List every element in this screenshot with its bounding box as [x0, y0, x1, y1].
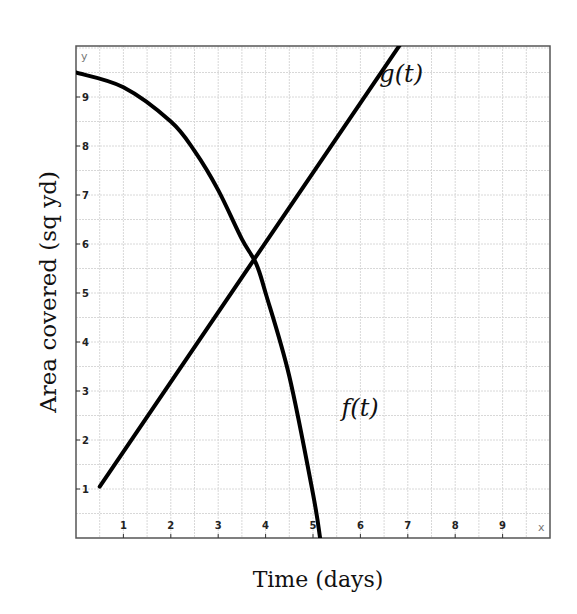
y-tick-label: 1	[82, 484, 89, 495]
x-tick-label: 8	[452, 520, 459, 531]
y-tick-label: 3	[82, 386, 89, 397]
x-tick-label: 5	[310, 520, 317, 531]
chart: 123456789123456789 y x g(t) f(t) Area co…	[0, 0, 577, 614]
y-tick-label: 2	[82, 435, 89, 446]
f-curve-label: f(t)	[339, 394, 378, 422]
y-axis-title: Area covered (sq yd)	[35, 171, 61, 414]
x-axis-letter: x	[538, 521, 545, 534]
y-tick-label: 9	[82, 92, 89, 103]
y-tick-label: 8	[82, 141, 89, 152]
x-tick-label: 9	[499, 520, 506, 531]
x-tick-label: 7	[404, 520, 411, 531]
x-tick-label: 1	[120, 520, 127, 531]
y-tick-label: 6	[82, 239, 89, 250]
y-tick-label: 4	[82, 337, 89, 348]
x-axis-title: Time (days)	[253, 567, 384, 592]
grid-lines	[76, 46, 550, 538]
y-tick-label: 5	[82, 288, 89, 299]
x-tick-label: 2	[167, 520, 174, 531]
x-tick-label: 3	[215, 520, 222, 531]
axis-ticks: 123456789123456789	[76, 92, 506, 538]
y-axis-letter: y	[81, 50, 88, 63]
x-tick-label: 6	[357, 520, 364, 531]
x-tick-label: 4	[262, 520, 269, 531]
g-curve-label: g(t)	[379, 60, 423, 88]
y-tick-label: 7	[82, 190, 89, 201]
